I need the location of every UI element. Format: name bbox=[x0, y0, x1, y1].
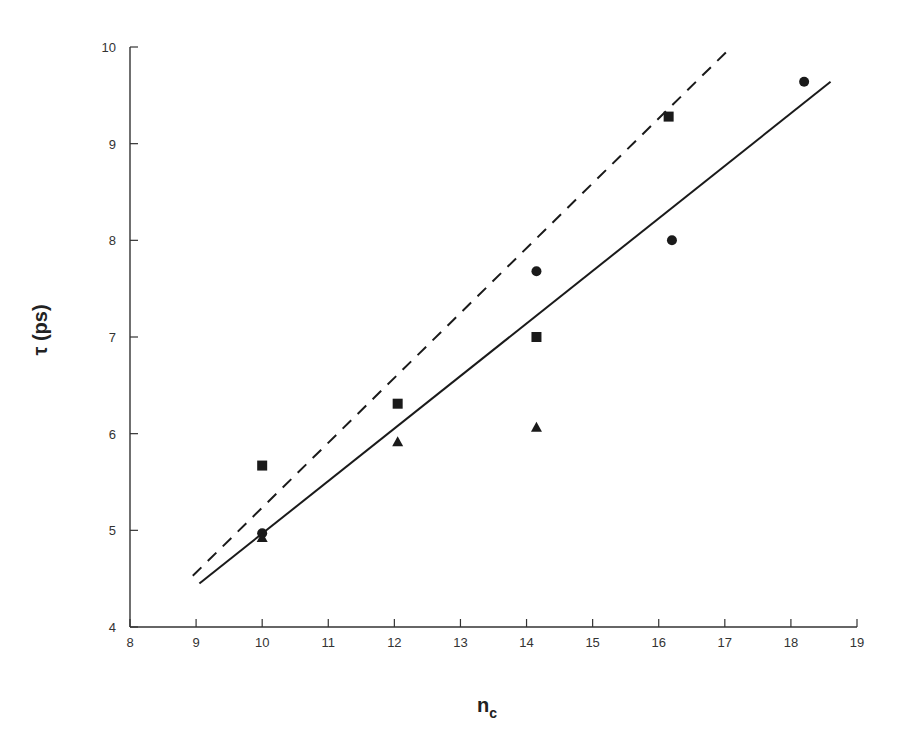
square-marker bbox=[664, 112, 674, 122]
x-tick-label: 16 bbox=[651, 635, 665, 650]
y-tick-label: 9 bbox=[109, 137, 116, 152]
x-axis-title: nc bbox=[477, 694, 497, 721]
circle-marker bbox=[531, 266, 541, 276]
triangle-marker bbox=[392, 436, 403, 446]
x-tick-label: 15 bbox=[585, 635, 599, 650]
x-tick-label: 14 bbox=[519, 635, 533, 650]
y-tick-label: 6 bbox=[109, 427, 116, 442]
axes: 891011121314151617181945678910 bbox=[102, 40, 865, 650]
triangle-marker bbox=[531, 422, 542, 432]
x-tick-label: 19 bbox=[850, 635, 864, 650]
circle-marker bbox=[799, 77, 809, 87]
y-axis-title: τ (ps) bbox=[29, 304, 51, 355]
x-axis-title-sub: c bbox=[489, 705, 497, 721]
y-tick-label: 5 bbox=[109, 523, 116, 538]
scatter-chart: 891011121314151617181945678910 τ (ps) nc bbox=[0, 0, 901, 740]
x-tick-label: 9 bbox=[192, 635, 199, 650]
solid-fit-line bbox=[199, 82, 830, 584]
square-marker bbox=[393, 399, 403, 409]
x-tick-label: 12 bbox=[387, 635, 401, 650]
x-tick-label: 13 bbox=[453, 635, 467, 650]
y-tick-label: 4 bbox=[109, 620, 116, 635]
x-tick-label: 18 bbox=[784, 635, 798, 650]
x-tick-label: 17 bbox=[718, 635, 732, 650]
circle-marker bbox=[667, 235, 677, 245]
x-tick-label: 11 bbox=[322, 635, 336, 650]
x-axis-title-main: n bbox=[477, 694, 489, 716]
fit-lines bbox=[193, 47, 831, 584]
y-tick-label: 10 bbox=[102, 40, 116, 55]
dashed-fit-line bbox=[193, 47, 732, 576]
y-tick-label: 8 bbox=[109, 233, 116, 248]
y-tick-label: 7 bbox=[109, 330, 116, 345]
square-marker bbox=[531, 332, 541, 342]
x-tick-label: 8 bbox=[126, 635, 133, 650]
x-tick-label: 10 bbox=[255, 635, 269, 650]
square-marker bbox=[257, 461, 267, 471]
